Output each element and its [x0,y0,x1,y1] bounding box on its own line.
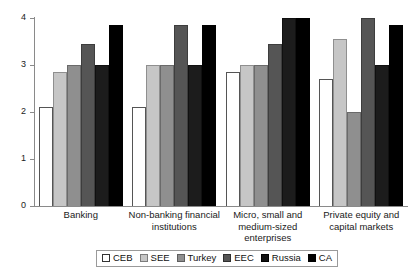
legend-swatch-icon [223,254,231,262]
bar-see-3 [240,65,254,206]
category-label-1: Banking [34,209,128,243]
bar-ca-4 [389,25,403,206]
category-label-line: Non-banking financial [129,209,221,221]
bar-turkey-2 [160,65,174,206]
y-tick-label: 0 [0,201,26,210]
legend-item-turkey[interactable]: Turkey [177,253,217,263]
bar-russia-1 [95,65,109,206]
bar-russia-4 [375,65,389,206]
category-label-line: Private equity and [316,209,408,221]
bar-russia-2 [188,65,202,206]
bar-group [34,18,128,206]
legend-item-eec[interactable]: EEC [223,253,254,263]
bar-eec-1 [81,44,95,206]
bar-see-1 [53,72,67,206]
category-label-line: capital markets [316,221,408,233]
bar-chart: 01234 BankingNon-banking financialinstit… [0,0,417,279]
legend-label: CA [319,253,332,263]
y-tick-label: 1 [0,154,26,163]
bar-group [128,18,222,206]
legend-item-ca[interactable]: CA [308,253,332,263]
legend-label: Russia [272,253,301,263]
category-label-4: Private equity andcapital markets [315,209,409,243]
legend-swatch-icon [102,254,110,262]
legend-item-see[interactable]: SEE [140,253,170,263]
category-label-line: Banking [35,209,127,221]
y-tick-label: 3 [0,60,26,69]
legend-label: SEE [151,253,170,263]
bar-turkey-1 [67,65,81,206]
bar-russia-3 [282,18,296,206]
category-label-3: Micro, small andmedium-sized enterprises [221,209,315,243]
y-tick-label: 2 [0,107,26,116]
y-tick-label: 4 [0,13,26,22]
bar-group [315,18,409,206]
bar-ca-3 [296,18,310,206]
x-axis-category-labels: BankingNon-banking financialinstitutions… [34,209,408,243]
legend-item-russia[interactable]: Russia [261,253,301,263]
legend-swatch-icon [308,254,316,262]
legend-swatch-icon [140,254,148,262]
legend-swatch-icon [261,254,269,262]
bar-eec-4 [361,18,375,206]
legend-label: EEC [234,253,254,263]
bar-turkey-3 [254,65,268,206]
bar-groups [34,18,408,206]
bar-ceb-3 [226,72,240,206]
bar-ceb-2 [132,107,146,206]
category-label-line: institutions [129,221,221,233]
legend-label: CEB [113,253,133,263]
bar-see-4 [333,39,347,206]
x-axis-line [34,206,408,207]
legend-label: Turkey [188,253,217,263]
bar-turkey-4 [347,112,361,206]
bar-see-2 [146,65,160,206]
legend-swatch-icon [177,254,185,262]
category-label-2: Non-banking financialinstitutions [128,209,222,243]
bar-ceb-1 [39,107,53,206]
legend-item-ceb[interactable]: CEB [102,253,133,263]
category-label-line: Micro, small and [222,209,314,221]
bar-eec-3 [268,44,282,206]
bar-eec-2 [174,25,188,206]
y-tick-mark [30,206,34,207]
category-label-line: medium-sized enterprises [222,221,314,244]
bar-ceb-4 [319,79,333,206]
bar-group [221,18,315,206]
chart-legend: CEBSEETurkeyEECRussiaCA [96,250,338,267]
bar-ca-1 [109,25,123,206]
bar-ca-2 [202,25,216,206]
